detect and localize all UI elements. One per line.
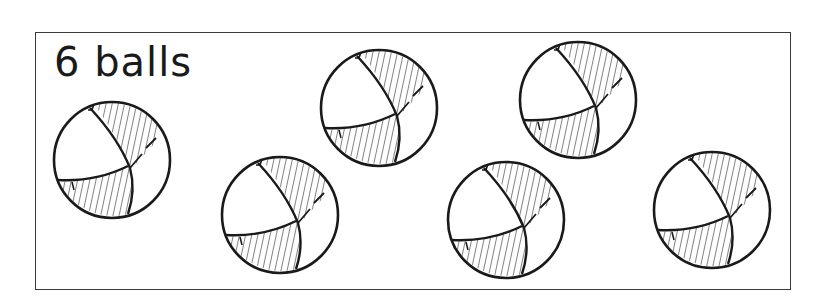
ball-1 — [54, 102, 170, 218]
ball-4 — [448, 162, 564, 278]
ball-3 — [321, 50, 437, 166]
ball-5 — [520, 42, 636, 158]
ball-2 — [222, 157, 338, 273]
ball-6 — [654, 152, 770, 268]
balls-illustration — [0, 0, 825, 304]
